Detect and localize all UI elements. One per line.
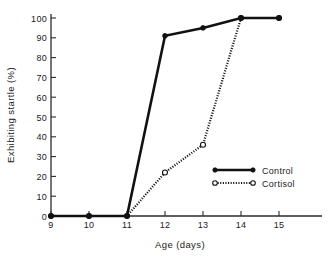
legend-marker-cortisol-end — [251, 181, 256, 186]
legend-label-cortisol: Cortisol — [262, 179, 295, 189]
y-tick-label-100: 100 — [31, 14, 47, 24]
legend-marker-control-start — [213, 168, 217, 172]
y-axis-title: Exhibiting startle (%) — [5, 67, 16, 163]
data-point-control-day-11 — [125, 214, 130, 219]
data-point-control-day-14 — [239, 16, 244, 21]
y-tick-label-70: 70 — [36, 73, 47, 83]
y-tick-label-20: 20 — [36, 172, 47, 182]
data-point-cortisol-day-12 — [163, 170, 168, 175]
data-point-control-day-9 — [49, 214, 54, 219]
legend-label-control: Control — [262, 166, 293, 176]
y-tick-label-30: 30 — [36, 152, 47, 162]
data-point-control-day-12 — [163, 33, 168, 38]
y-tick-label-50: 50 — [36, 113, 47, 123]
legend-marker-cortisol-start — [213, 181, 218, 186]
startle-response-line-chart: 100 90 80 70 60 50 40 30 20 10 0 Exhibit… — [0, 0, 331, 260]
legend-marker-control-end — [251, 168, 255, 172]
data-point-control-day-13 — [201, 26, 206, 31]
y-tick-label-0: 0 — [42, 212, 47, 222]
x-tick-label-11: 11 — [122, 220, 132, 230]
x-axis-title: Age (days) — [155, 239, 205, 250]
y-tick-label-80: 80 — [36, 53, 47, 63]
y-tick-label-10: 10 — [36, 192, 47, 202]
data-point-cortisol-day-13 — [201, 142, 206, 147]
y-tick-label-90: 90 — [36, 33, 47, 43]
y-tick-label-40: 40 — [36, 132, 47, 142]
data-point-control-day-10 — [87, 214, 92, 219]
x-tick-label-12: 12 — [160, 220, 171, 230]
x-tick-label-13: 13 — [198, 220, 209, 230]
x-tick-label-10: 10 — [84, 220, 95, 230]
x-tick-label-14: 14 — [236, 220, 247, 230]
y-tick-label-60: 60 — [36, 93, 47, 103]
data-point-control-day-15 — [277, 16, 282, 21]
x-tick-label-9: 9 — [48, 220, 53, 230]
x-tick-label-15: 15 — [274, 220, 285, 230]
